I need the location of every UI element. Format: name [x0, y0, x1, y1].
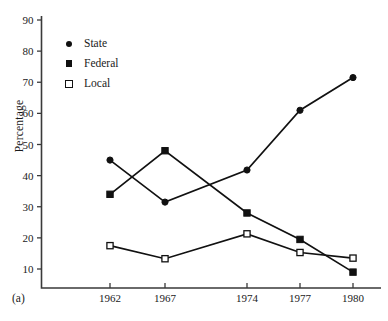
y-tick-label: 50: [23, 139, 35, 151]
data-point-state: [107, 157, 113, 163]
legend-label-local: Local: [84, 78, 110, 90]
data-point-state: [297, 107, 303, 113]
x-tick-label: 1974: [236, 292, 259, 304]
y-tick-label: 20: [23, 232, 35, 244]
x-tick-label: 1967: [154, 292, 177, 304]
legend-label-federal: Federal: [84, 58, 118, 70]
y-tick-label: 70: [23, 76, 35, 88]
y-tick-label: 10: [23, 263, 35, 275]
legend-item-federal: Federal: [62, 55, 118, 72]
data-point-state: [162, 199, 168, 205]
figure-caption: (a): [12, 292, 25, 304]
data-point-federal: [297, 236, 303, 242]
data-point-local: [162, 256, 168, 262]
chart-figure: Percentage 102030405060708090 1962196719…: [0, 0, 388, 321]
y-tick-label: 90: [23, 14, 35, 26]
y-tick-label: 80: [23, 45, 35, 57]
y-tick-label: 60: [23, 107, 35, 119]
open-square-icon: [62, 80, 76, 88]
series-line-local: [110, 234, 353, 259]
data-point-federal: [244, 210, 250, 216]
line-chart-plot: 102030405060708090 19621967197419771980: [0, 0, 388, 321]
y-tick-label: 40: [23, 170, 35, 182]
y-axis-ticks: 102030405060708090: [23, 14, 42, 275]
series-federal: [107, 148, 356, 276]
data-point-local: [350, 255, 356, 261]
data-point-federal: [107, 191, 113, 197]
filled-square-icon: [62, 60, 76, 67]
data-point-local: [244, 231, 250, 237]
filled-circle-icon: [62, 41, 76, 47]
x-tick-label: 1977: [289, 292, 312, 304]
data-point-state: [350, 74, 356, 80]
series-state: [107, 74, 356, 205]
y-tick-label: 30: [23, 201, 35, 213]
data-point-local: [107, 243, 113, 249]
x-axis-ticks: 19621967197419771980: [99, 283, 365, 304]
data-point-state: [244, 167, 250, 173]
data-point-federal: [162, 148, 168, 154]
legend-item-local: Local: [62, 75, 118, 92]
x-tick-label: 1980: [342, 292, 365, 304]
legend-item-state: State: [62, 35, 118, 52]
chart-legend: State Federal Local: [62, 35, 118, 95]
series-local: [107, 231, 356, 262]
series-line-state: [110, 78, 353, 203]
data-point-local: [297, 249, 303, 255]
data-series-layer: [107, 74, 356, 275]
legend-label-state: State: [84, 38, 107, 50]
data-point-federal: [350, 269, 356, 275]
x-tick-label: 1962: [99, 292, 121, 304]
